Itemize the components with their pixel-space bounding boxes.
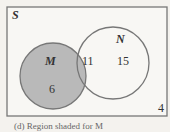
n-only-count: 15 [117, 54, 129, 69]
set-m-circle [20, 43, 86, 109]
set-n-label: N [116, 32, 125, 47]
outside-count: 4 [158, 101, 164, 116]
intersection-count: 11 [82, 54, 94, 69]
m-only-count: 6 [49, 82, 55, 97]
caption: (d) Region shaded for M [14, 121, 103, 131]
set-m-label: M [45, 54, 56, 69]
universe-label: S [12, 8, 19, 23]
